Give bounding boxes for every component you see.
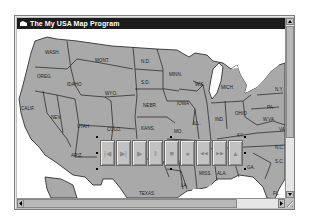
pause-icon: ‖ xyxy=(154,150,157,157)
rewind-button[interactable]: ◀◀ xyxy=(196,140,211,166)
resize-grip-icon xyxy=(286,200,293,207)
svg-text:N.C.: N.C. xyxy=(275,145,284,150)
previous-button[interactable]: |◀ xyxy=(100,140,115,166)
svg-text:N.Y.: N.Y. xyxy=(275,87,283,92)
svg-text:COLO.: COLO. xyxy=(107,127,121,132)
svg-text:CALIF.: CALIF. xyxy=(21,106,35,111)
svg-text:ARIZ.: ARIZ. xyxy=(71,153,83,158)
scroll-right-button[interactable] xyxy=(278,199,285,208)
svg-text:IND.: IND. xyxy=(215,117,224,122)
app-system-menu-icon[interactable] xyxy=(20,21,27,26)
usa-map[interactable]: WASH. OREG. IDAHO MONT. N.D. MINN. WIS. … xyxy=(17,29,285,198)
rewind-icon: ◀◀ xyxy=(200,151,208,156)
svg-text:NEBR.: NEBR. xyxy=(143,103,157,108)
svg-text:LA.: LA. xyxy=(181,183,188,188)
play-button[interactable]: ▶ xyxy=(132,140,147,166)
eject-button[interactable]: ▲ xyxy=(228,140,243,166)
svg-text:PA.: PA. xyxy=(267,105,274,110)
fast-forward-icon: ▶▶ xyxy=(216,151,224,156)
svg-text:MICH.: MICH. xyxy=(221,85,234,90)
media-control-bar: |◀ ▶| ▶ ‖ ■ ● ◀◀ ▶▶ ▲ xyxy=(99,139,244,167)
svg-text:S.C.: S.C. xyxy=(275,159,284,164)
svg-text:MISS.: MISS. xyxy=(199,171,212,176)
horizontal-scrollbar[interactable] xyxy=(17,198,285,208)
eject-icon: ▲ xyxy=(232,150,239,157)
app-window: The My USA Map Program xyxy=(14,15,295,210)
svg-text:MO.: MO. xyxy=(174,129,183,134)
svg-text:UTAH: UTAH xyxy=(77,124,89,129)
baja-california xyxy=(45,177,77,198)
title-bar[interactable]: The My USA Map Program xyxy=(17,18,285,29)
size-grip[interactable] xyxy=(285,198,294,208)
skip-back-icon: |◀ xyxy=(104,150,111,157)
horizontal-scroll-thumb[interactable] xyxy=(23,199,237,208)
svg-text:IOWA: IOWA xyxy=(177,101,190,106)
svg-text:S.D.: S.D. xyxy=(141,80,150,85)
svg-text:MINN.: MINN. xyxy=(169,72,182,77)
svg-text:OHIO: OHIO xyxy=(235,111,247,116)
svg-text:WASH.: WASH. xyxy=(45,50,60,55)
fast-forward-button[interactable]: ▶▶ xyxy=(212,140,227,166)
svg-text:WYO.: WYO. xyxy=(105,91,117,96)
svg-text:FL.: FL. xyxy=(273,191,280,196)
window-title: The My USA Map Program xyxy=(30,20,119,27)
stop-button[interactable]: ■ xyxy=(164,140,179,166)
vertical-scrollbar[interactable] xyxy=(285,18,294,198)
svg-text:IDAHO: IDAHO xyxy=(67,82,82,87)
record-icon: ● xyxy=(185,150,189,157)
svg-text:OREG.: OREG. xyxy=(37,74,52,79)
svg-text:TEXAS: TEXAS xyxy=(139,191,154,196)
map-canvas[interactable]: WASH. OREG. IDAHO MONT. N.D. MINN. WIS. … xyxy=(17,29,285,198)
stop-icon: ■ xyxy=(169,150,173,157)
svg-text:ALA.: ALA. xyxy=(217,171,227,176)
pause-button[interactable]: ‖ xyxy=(148,140,163,166)
svg-text:WIS.: WIS. xyxy=(195,82,205,87)
step-button[interactable]: ▶| xyxy=(116,140,131,166)
svg-text:MONT.: MONT. xyxy=(95,58,109,63)
vertical-scroll-thumb[interactable] xyxy=(286,26,294,138)
svg-text:W.VA.: W.VA. xyxy=(263,117,275,122)
svg-text:NEV.: NEV. xyxy=(51,115,61,120)
svg-text:KY.: KY. xyxy=(237,133,244,138)
svg-text:ILL.: ILL. xyxy=(193,121,201,126)
svg-text:GA.: GA. xyxy=(247,165,255,170)
scroll-up-button[interactable] xyxy=(286,18,294,25)
play-icon: ▶ xyxy=(137,150,142,157)
record-button[interactable]: ● xyxy=(180,140,195,166)
svg-text:KANS.: KANS. xyxy=(141,126,155,131)
step-forward-icon: ▶| xyxy=(120,150,127,157)
scroll-down-button[interactable] xyxy=(286,191,294,198)
svg-text:N.D.: N.D. xyxy=(141,59,150,64)
